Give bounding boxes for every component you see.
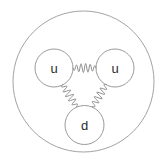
quark-label-u-right: u: [111, 61, 118, 76]
diagram-canvas: u u d: [0, 0, 167, 164]
gluon-u-right-to-d: [92, 84, 107, 106]
quark-label-d-bottom: d: [81, 118, 88, 133]
quark-label-u-left: u: [50, 61, 57, 76]
gluon-u-left-to-d: [61, 85, 77, 107]
gluon-u-left-to-u-right: [73, 64, 96, 73]
proton-quark-diagram: u u d: [0, 0, 167, 164]
